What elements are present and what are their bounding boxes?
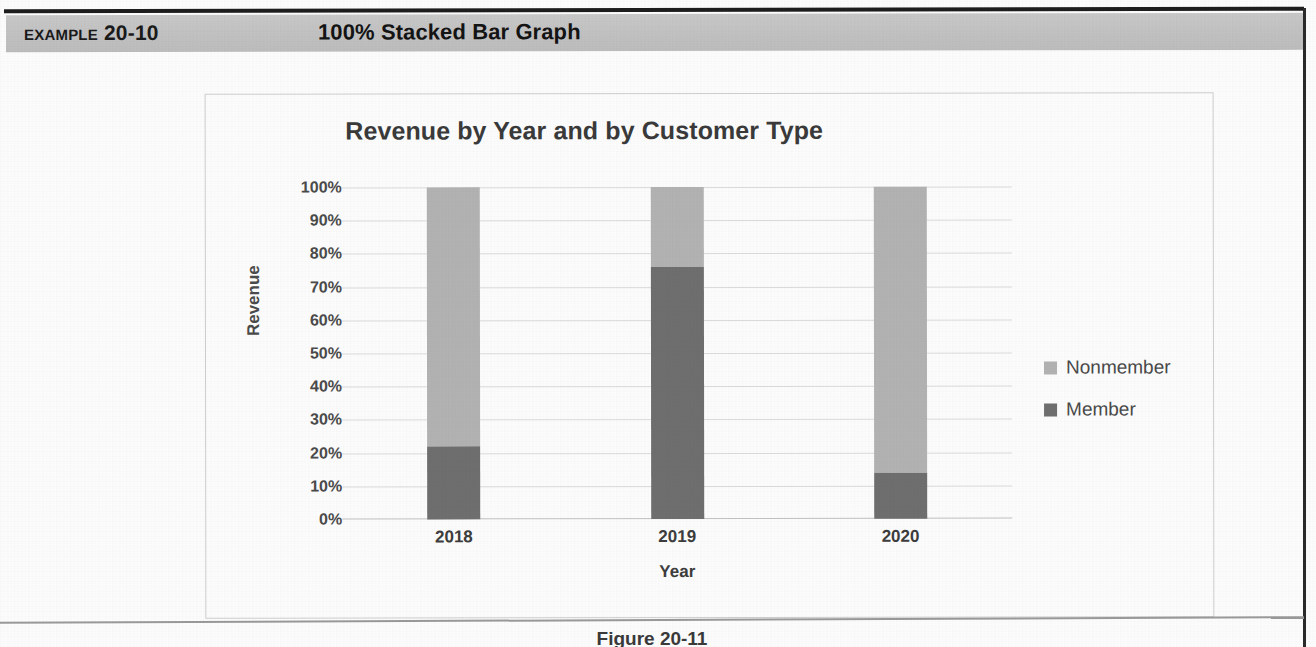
- stacked-bar[interactable]: [427, 187, 480, 519]
- example-title: 100% Stacked Bar Graph: [318, 19, 581, 45]
- y-axis-tick-label: 0%: [272, 511, 342, 529]
- y-axis-tick-label: 50%: [272, 345, 342, 363]
- stacked-bar[interactable]: [650, 187, 703, 519]
- y-axis-tick-label: 60%: [272, 311, 342, 329]
- legend-item-label: Nonmember: [1066, 356, 1171, 378]
- y-axis-tick-label: 10%: [272, 477, 342, 495]
- legend-swatch-icon: [1044, 403, 1057, 416]
- y-axis-tick-label: 30%: [272, 411, 342, 429]
- y-axis-tick-label: 90%: [272, 212, 342, 230]
- y-axis-tick-labels: 100%90%80%70%60%50%40%30%20%10%0%: [262, 188, 342, 520]
- y-axis-tick-label: 20%: [272, 444, 342, 462]
- y-axis-tick-label: 40%: [272, 378, 342, 396]
- x-axis-tick-label: 2020: [831, 527, 971, 547]
- stacked-bar[interactable]: [874, 187, 927, 519]
- chart-title: Revenue by Year and by Customer Type: [206, 115, 1213, 145]
- x-axis-tick-label: 2019: [607, 527, 747, 547]
- legend-swatch-icon: [1044, 361, 1057, 374]
- example-number-label: Example 20-10: [24, 21, 159, 45]
- chart-legend: NonmemberMember: [1044, 356, 1209, 440]
- y-axis-tick-label: 70%: [272, 278, 342, 296]
- bar-series-group: [342, 187, 1012, 188]
- bar-segment-member[interactable]: [427, 446, 480, 519]
- bar-segment-member[interactable]: [874, 472, 927, 519]
- example-header-band: Example 20-10 100% Stacked Bar Graph: [6, 13, 1303, 52]
- bar-segment-member[interactable]: [650, 267, 703, 519]
- bar-segment-nonmember[interactable]: [427, 187, 480, 446]
- chart-container: Revenue by Year and by Customer Type Rev…: [205, 92, 1215, 618]
- legend-item[interactable]: Nonmember: [1044, 356, 1209, 378]
- bar-segment-nonmember[interactable]: [650, 187, 703, 267]
- plot-area: 201820192020 Year: [342, 187, 1012, 520]
- bar-segment-nonmember[interactable]: [874, 187, 927, 473]
- y-axis-tick-label: 80%: [272, 245, 342, 263]
- figure-caption: Figure 20-11: [0, 628, 1304, 647]
- scanned-page: Example 20-10 100% Stacked Bar Graph Rev…: [0, 0, 1316, 647]
- legend-item-label: Member: [1066, 398, 1136, 420]
- legend-item[interactable]: Member: [1044, 398, 1209, 420]
- page-right-rule: [1303, 8, 1306, 647]
- x-axis-title: Year: [342, 562, 1012, 583]
- y-axis-tick-label: 100%: [272, 179, 342, 197]
- x-axis-tick-label: 2018: [384, 527, 524, 547]
- example-header-content: Example 20-10 100% Stacked Bar Graph: [6, 13, 1303, 52]
